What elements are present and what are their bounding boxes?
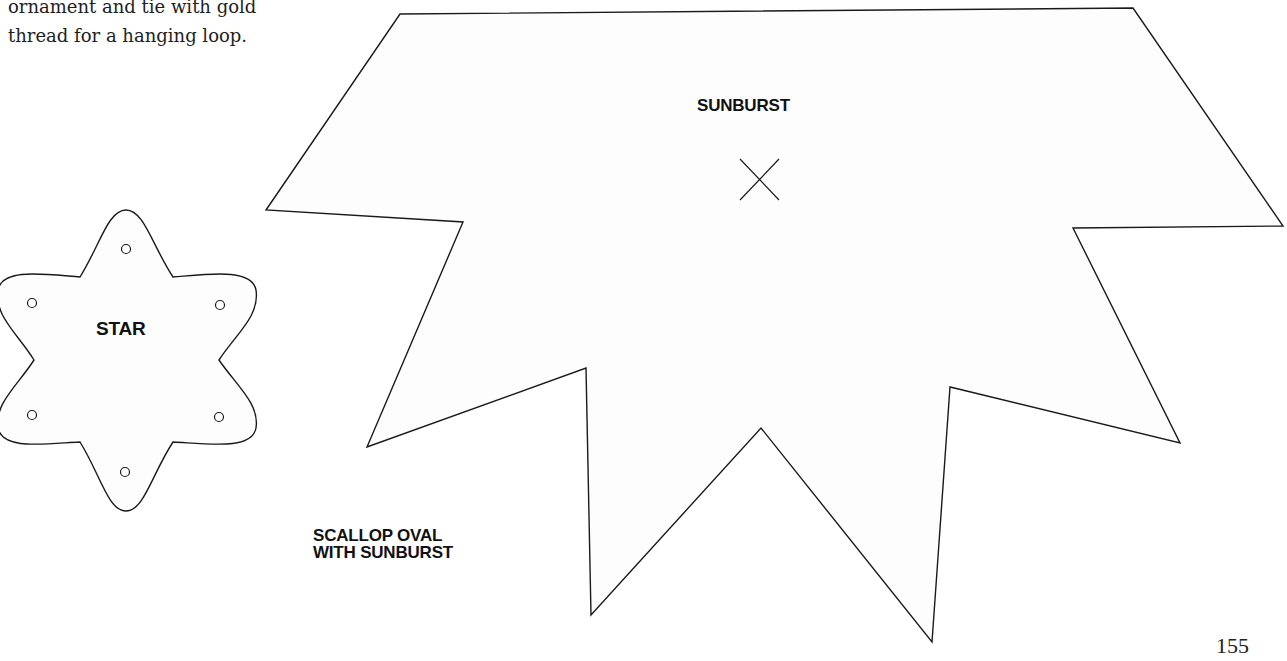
- scallop-oval-label-line: WITH SUNBURST: [313, 544, 453, 561]
- page-number: 155: [1216, 633, 1249, 659]
- punch-hole-icon: [28, 299, 37, 308]
- pattern-artwork: [0, 0, 1287, 661]
- star-label: STAR: [96, 318, 146, 340]
- punch-hole-icon: [122, 245, 131, 254]
- scallop-oval-label: SCALLOP OVAL WITH SUNBURST: [313, 527, 453, 561]
- scallop-oval-label-line: SCALLOP OVAL: [313, 527, 453, 544]
- sunburst-label: SUNBURST: [697, 96, 790, 116]
- punch-hole-icon: [216, 301, 225, 310]
- punch-hole-icon: [28, 411, 37, 420]
- star-template-outline: [0, 210, 256, 511]
- punch-hole-icon: [121, 468, 130, 477]
- punch-hole-icon: [215, 413, 224, 422]
